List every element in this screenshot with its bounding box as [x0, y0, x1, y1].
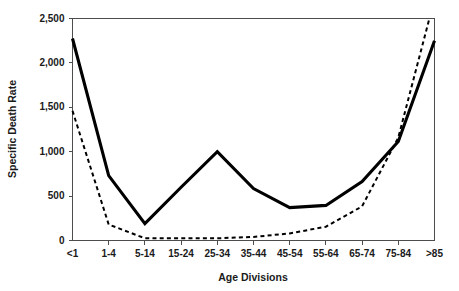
x-tick-label: 1-4 — [101, 248, 116, 259]
y-tick-label: 1,500 — [39, 101, 64, 112]
x-axis-ticks — [109, 241, 399, 245]
y-tick-label: 0 — [59, 235, 65, 246]
series-line-solid — [73, 38, 435, 223]
chart-container: 05001,0001,5002,0002,500 <11-45-1415-242… — [0, 0, 459, 291]
x-tick-label: 75-84 — [386, 248, 412, 259]
x-tick-label: <1 — [67, 248, 79, 259]
axis-frame — [73, 19, 435, 241]
x-tick-label: >85 — [426, 248, 443, 259]
x-axis-tick-labels: <11-45-1415-2425-3435-4445-5455-6465-747… — [67, 248, 444, 259]
x-tick-label: 65-74 — [349, 248, 375, 259]
x-tick-label: 55-64 — [313, 248, 339, 259]
x-tick-label: 15-24 — [168, 248, 194, 259]
y-tick-label: 2,500 — [39, 13, 64, 24]
series-line-dashed — [73, 0, 435, 238]
y-tick-label: 2,000 — [39, 57, 64, 68]
x-tick-label: 35-44 — [241, 248, 267, 259]
y-axis-ticks — [69, 19, 73, 241]
death-rate-line-chart: 05001,0001,5002,0002,500 <11-45-1415-242… — [0, 0, 459, 291]
x-tick-label: 45-54 — [277, 248, 303, 259]
data-series-group — [73, 0, 435, 238]
y-axis-title: Specific Death Rate — [6, 80, 18, 178]
x-tick-label: 25-34 — [205, 248, 231, 259]
plot-frame — [73, 19, 435, 241]
y-axis-tick-labels: 05001,0001,5002,0002,500 — [39, 13, 64, 246]
y-tick-label: 1,000 — [39, 146, 64, 157]
x-axis-title: Age Divisions — [218, 271, 288, 283]
y-tick-label: 500 — [48, 190, 65, 201]
x-tick-label: 5-14 — [135, 248, 155, 259]
